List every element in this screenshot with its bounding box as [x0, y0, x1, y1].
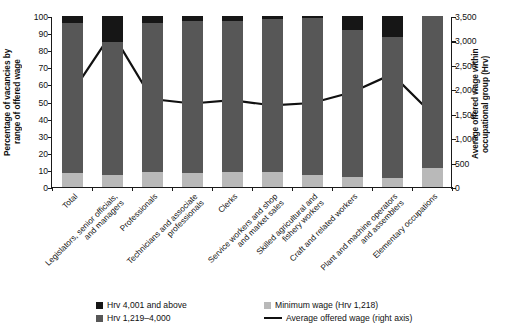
bar-segment [62, 16, 83, 23]
y-tick-mark-left [48, 85, 52, 86]
bar-segment [222, 172, 243, 187]
y-tick-label-left: 40 [38, 116, 48, 124]
y-axis-title-right: Average offered wage within occupational… [470, 14, 492, 194]
bar-segment [142, 16, 163, 23]
bar-segment [142, 23, 163, 173]
bar-segment [222, 21, 243, 171]
y-tick-label-left: 70 [38, 64, 48, 72]
bar-stack[interactable] [62, 16, 83, 187]
legend-item[interactable]: Hrv 4,001 and above [96, 300, 187, 310]
bar-stack[interactable] [382, 16, 403, 187]
bar-segment [222, 16, 243, 21]
y-tick-label-right: 500 [455, 160, 469, 168]
legend-label: Average offered wage (right axis) [286, 313, 412, 323]
bar-segment [302, 18, 323, 175]
y-tick-label-left: 60 [38, 81, 48, 89]
bar-segment [382, 16, 403, 37]
y-tick-label-left: 10 [38, 167, 48, 175]
chart-figure: Percentage of vacancies by range of offe… [0, 0, 521, 335]
y-tick-label-left: 20 [38, 150, 48, 158]
y-tick-mark-left [48, 137, 52, 138]
y-tick-mark-left [48, 68, 52, 69]
bar-segment [382, 37, 403, 178]
bar-stack[interactable] [142, 16, 163, 187]
y-tick-mark-left [48, 171, 52, 172]
plot-area [51, 17, 451, 188]
bar-segment [182, 16, 203, 21]
bar-stack[interactable] [342, 16, 363, 187]
chart-legend: Hrv 4,001 and aboveMinimum wage (Hrv 1,2… [96, 300, 436, 330]
bar-segment [262, 16, 283, 19]
y-axis-right-line [451, 17, 452, 188]
y-tick-label-left: 90 [38, 30, 48, 38]
bar-segment [102, 175, 123, 187]
bar-segment [422, 168, 443, 187]
bar-segment [62, 173, 83, 187]
legend-swatch [96, 302, 103, 309]
legend-label: Hrv 4,001 and above [107, 300, 187, 310]
x-axis-category-labels: TotalLegislators, senior officials,and m… [51, 190, 451, 300]
bar-segment [382, 178, 403, 187]
bar-segment [302, 16, 323, 18]
bar-segment [342, 30, 363, 177]
y-axis-ticks-left: 1009080706050403020100 [24, 0, 48, 200]
y-tick-label-left: 30 [38, 133, 48, 141]
y-tick-label-right: 0 [455, 184, 460, 192]
legend-label: Hrv 1,219–4,000 [107, 313, 171, 323]
bar-segment [342, 16, 363, 30]
legend-line-marker [264, 317, 282, 319]
bar-segment [262, 19, 283, 172]
legend-label: Minimum wage (Hrv 1,218) [275, 300, 378, 310]
legend-item[interactable]: Hrv 1,219–4,000 [96, 313, 171, 323]
y-tick-mark-left [48, 103, 52, 104]
y-tick-mark-left [48, 51, 52, 52]
legend-swatch [264, 302, 271, 309]
bar-stack[interactable] [102, 16, 123, 187]
bar-stack[interactable] [182, 16, 203, 187]
bar-segment [182, 173, 203, 187]
average-wage-polyline [72, 33, 432, 114]
bar-segment [422, 16, 443, 168]
bar-segment [142, 172, 163, 187]
y-tick-label-left: 80 [38, 47, 48, 55]
bar-segment [62, 23, 83, 173]
legend-item[interactable]: Average offered wage (right axis) [264, 313, 412, 323]
bar-segment [342, 177, 363, 187]
bar-segment [102, 16, 123, 42]
y-tick-mark-left [48, 17, 52, 18]
y-tick-label-left: 50 [38, 99, 48, 107]
bar-segment [182, 21, 203, 173]
y-axis-title-left: Percentage of vacancies by range of offe… [2, 18, 24, 186]
bar-segment [102, 42, 123, 176]
bar-segment [262, 172, 283, 187]
legend-swatch [96, 315, 103, 322]
legend-item[interactable]: Minimum wage (Hrv 1,218) [264, 300, 378, 310]
bar-stack[interactable] [262, 16, 283, 187]
bar-segment [302, 175, 323, 187]
bar-stack[interactable] [222, 16, 243, 187]
y-tick-mark-left [48, 154, 52, 155]
y-tick-label-left: 100 [34, 13, 48, 21]
bar-stack[interactable] [302, 16, 323, 187]
y-tick-mark-left [48, 120, 52, 121]
y-tick-mark-left [48, 34, 52, 35]
bar-stack[interactable] [422, 16, 443, 187]
